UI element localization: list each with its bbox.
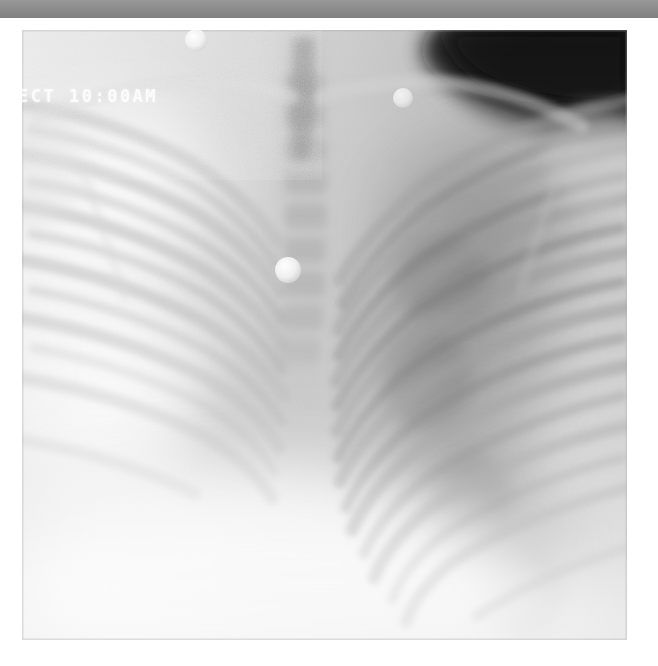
viewer-header-band-shading [0,0,658,18]
marker-upper-mid [393,88,413,108]
viewer-header-band [0,0,658,18]
marker-top-left [185,30,207,51]
chest-radiograph-image [22,30,627,640]
xray-image-frame[interactable]: ECT 10:00AM [22,30,627,640]
marker-central [275,257,301,283]
